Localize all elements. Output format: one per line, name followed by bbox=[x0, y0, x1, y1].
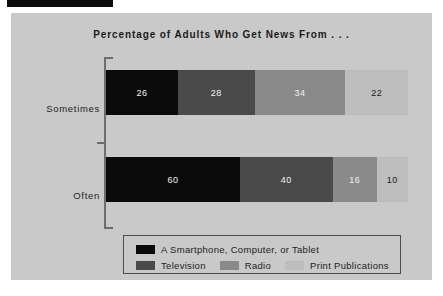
legend-swatch-television bbox=[136, 261, 155, 270]
bar-segment-sometimes-television: 28 bbox=[178, 70, 255, 115]
chart-legend: A Smartphone, Computer, or Tablet Televi… bbox=[123, 235, 401, 274]
legend-item-smartphone: A Smartphone, Computer, or Tablet bbox=[136, 244, 319, 255]
y-axis-cap-top bbox=[104, 57, 113, 59]
bar-row-sometimes: 26 28 34 22 bbox=[106, 70, 408, 115]
bar-segment-sometimes-smartphone: 26 bbox=[106, 70, 178, 115]
legend-label-print: Print Publications bbox=[310, 260, 389, 271]
legend-label-television: Television bbox=[161, 260, 206, 271]
chart-panel: Percentage of Adults Who Get News From .… bbox=[11, 13, 432, 280]
bar-segment-sometimes-print: 22 bbox=[345, 70, 408, 115]
legend-row-2: Television Radio Print Publications bbox=[136, 257, 400, 273]
legend-label-radio: Radio bbox=[245, 260, 271, 271]
bar-segment-often-radio: 16 bbox=[333, 157, 377, 202]
bar-segment-often-print: 10 bbox=[377, 157, 408, 202]
bar-segment-often-television: 40 bbox=[240, 157, 333, 202]
legend-swatch-radio bbox=[220, 261, 239, 270]
legend-swatch-smartphone bbox=[136, 245, 155, 254]
bar-segment-often-smartphone: 60 bbox=[106, 157, 240, 202]
chart-panel-inner: Percentage of Adults Who Get News From .… bbox=[11, 13, 432, 280]
bar-row-often: 60 40 16 10 bbox=[106, 157, 408, 202]
legend-row-1: A Smartphone, Computer, or Tablet bbox=[136, 241, 400, 257]
legend-label-smartphone: A Smartphone, Computer, or Tablet bbox=[161, 244, 319, 255]
legend-item-print: Print Publications bbox=[285, 260, 389, 271]
legend-item-television: Television bbox=[136, 260, 206, 271]
y-axis-cap-bottom bbox=[104, 227, 113, 229]
top-black-banner bbox=[7, 0, 113, 7]
category-label-often: Often bbox=[73, 190, 100, 201]
legend-swatch-print bbox=[285, 261, 304, 270]
bar-segment-sometimes-radio: 34 bbox=[255, 70, 346, 115]
y-axis-tick-middle bbox=[97, 142, 105, 144]
legend-item-radio: Radio bbox=[220, 260, 271, 271]
category-label-sometimes: Sometimes bbox=[46, 103, 100, 114]
